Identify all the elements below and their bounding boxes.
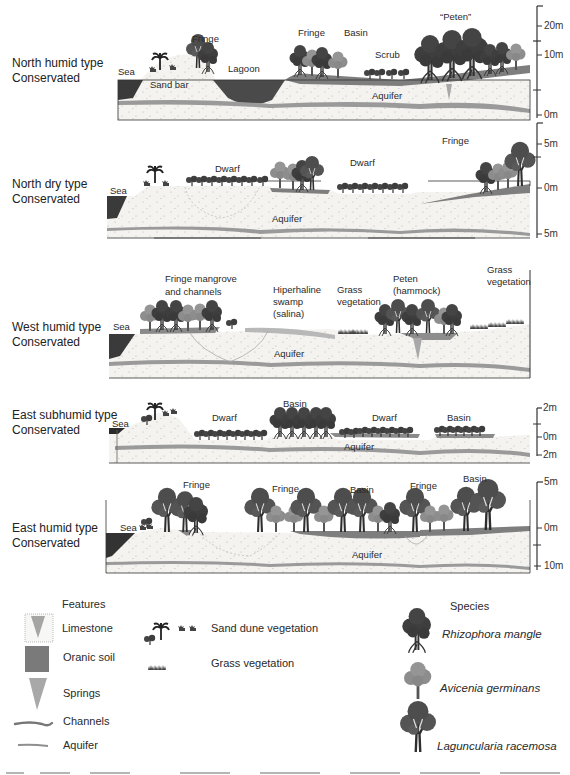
aquifer-label: Aquifer xyxy=(274,348,304,359)
profile-subtitle: Conservated xyxy=(12,536,80,550)
scale-tick: 10m xyxy=(544,560,563,571)
region-label: Grass xyxy=(337,284,363,295)
profile-subtitle: Conservated xyxy=(12,423,80,437)
aquifer-label: Aquifer xyxy=(344,441,374,452)
region-label: Basin xyxy=(344,27,368,38)
scale-bar: 5m 0m 10m xyxy=(533,476,563,571)
profile-title: East humid type xyxy=(12,521,98,535)
region-label: Fringe xyxy=(272,483,299,494)
scale-tick: 5m xyxy=(544,228,558,239)
legend-label: Springs xyxy=(63,687,101,699)
profile-north-humid: North humid type Conservated Sea Sand ba… xyxy=(12,6,563,120)
rhizophora-tree-icon xyxy=(402,608,431,653)
region-label: Grass xyxy=(487,264,513,275)
region-label: Fringe xyxy=(183,479,210,490)
scale-tick: 2m xyxy=(543,449,557,460)
scale-tick: 0m xyxy=(544,182,558,193)
scale-tick: 0m xyxy=(544,109,558,120)
profile-east-humid: East humid type Conservated Sea Fringe F… xyxy=(12,473,563,573)
region-label: Scrub xyxy=(375,49,400,60)
profile-subtitle: Conservated xyxy=(12,71,80,85)
region-label: Fringe xyxy=(442,135,469,146)
legend-label: Sand dune vegetation xyxy=(211,622,318,634)
scale-tick: 0m xyxy=(544,522,558,533)
legend-label: Oranic soil xyxy=(63,651,115,663)
organic-soil-icon xyxy=(25,646,49,672)
profile-north-dry: North dry type Conservated Sea Dwarf Dwa… xyxy=(12,123,558,239)
mangrove-profiles-diagram: North humid type Conservated Sea Sand ba… xyxy=(0,0,570,775)
scale-tick: 10m xyxy=(544,49,563,60)
aquifer-label: Aquifer xyxy=(352,549,382,560)
aquifer-icon xyxy=(18,745,48,746)
region-label: (hammock) xyxy=(393,285,441,296)
organic-soil xyxy=(435,434,495,438)
profile-title: North dry type xyxy=(12,177,88,191)
region-label: Dwarf xyxy=(212,412,237,423)
region-label: Fringe xyxy=(192,33,219,44)
legend-label: Aquifer xyxy=(63,739,98,751)
region-label: Sea xyxy=(118,66,136,77)
legend-species-label: Laguncularia racemosa xyxy=(437,740,557,752)
region-label: Lagoon xyxy=(228,63,260,74)
profile-west-humid: West humid type Conservated Sea Fringe m… xyxy=(12,264,531,378)
profile-title: West humid type xyxy=(12,320,101,334)
region-label: Dwarf xyxy=(372,412,397,423)
profile-east-subhumid: East subhumid type Conservated Sea Dwarf… xyxy=(12,398,557,463)
scale-tick: 0m xyxy=(543,431,557,442)
region-label: Dwarf xyxy=(350,157,375,168)
profile-title: North humid type xyxy=(12,56,104,70)
region-label: (salina) xyxy=(273,308,304,319)
region-label: Peten xyxy=(393,273,418,284)
region-label: Dwarf xyxy=(215,163,240,174)
region-label: Basin xyxy=(447,412,471,423)
region-label: vegetation xyxy=(487,276,531,287)
legend-species-label: Rhizophora mangle xyxy=(442,628,542,640)
sand-dune-vegetation-icon xyxy=(144,623,196,645)
region-label: vegetation xyxy=(337,296,381,307)
legend-species-title: Species xyxy=(450,600,490,612)
region-label: Sea xyxy=(120,522,138,533)
region-label: Sand bar xyxy=(150,79,189,90)
profile-subtitle: Conservated xyxy=(12,335,80,349)
scale-tick: 5m xyxy=(544,476,558,487)
channels-icon xyxy=(15,723,52,726)
region-label: Basin xyxy=(283,398,307,409)
region-label: “Peten” xyxy=(440,11,471,22)
legend: Features Limestone Oranic soil Springs C… xyxy=(15,598,557,752)
scale-tick: 5m xyxy=(544,138,558,149)
limestone-icon xyxy=(25,614,53,642)
scale-bar: 20m 10m 0m xyxy=(533,6,563,120)
region-label: Basin xyxy=(463,473,487,484)
scale-bar: 5m 0m 5m xyxy=(533,123,558,239)
scale-tick: 20m xyxy=(544,20,563,31)
region-label: swamp xyxy=(273,296,303,307)
legend-features-title: Features xyxy=(62,598,106,610)
legend-species-label: Avicenia germinans xyxy=(439,682,540,694)
region-label: Fringe mangrove xyxy=(165,273,237,284)
region-label: Basin xyxy=(350,484,374,495)
scale-tick: 2m xyxy=(543,402,557,413)
avicenia-tree-icon xyxy=(404,662,431,699)
region-label: Sea xyxy=(112,418,130,429)
aquifer-label: Aquifer xyxy=(372,90,402,101)
region-label: and channels xyxy=(165,286,222,297)
region-label: Fringe xyxy=(298,27,325,38)
grass-vegetation-icon xyxy=(148,665,166,670)
region-label: Fringe xyxy=(410,480,437,491)
profile-subtitle: Conservated xyxy=(12,192,80,206)
laguncularia-tree-icon xyxy=(400,701,436,752)
legend-label: Grass vegetation xyxy=(211,657,294,669)
region-label: Sea xyxy=(113,321,131,332)
region-label: Hiperhaline xyxy=(273,284,321,295)
aquifer-label: Aquifer xyxy=(272,213,302,224)
region-label: Sea xyxy=(110,185,128,196)
profile-title: East subhumid type xyxy=(12,408,118,422)
springs-icon xyxy=(29,678,47,710)
scale-bar: 2m 0m 2m xyxy=(533,402,557,460)
legend-label: Channels xyxy=(63,715,110,727)
legend-label: Limestone xyxy=(62,622,113,634)
